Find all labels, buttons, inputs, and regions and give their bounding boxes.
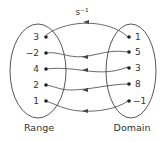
domain-value: 5 (135, 47, 141, 57)
domain-value: 1 (135, 32, 141, 42)
mapping-arrows (46, 23, 128, 111)
domain-value: 8 (135, 79, 141, 89)
range-dots (44, 35, 48, 103)
domain-value: −1 (133, 96, 146, 106)
domain-caption: Domain (114, 122, 151, 133)
range-value: 2 (33, 80, 39, 90)
range-caption: Range (24, 122, 54, 133)
domain-dots (127, 35, 131, 103)
mapping-diagram: s⁻¹ 3 −2 4 2 1 1 5 3 8 −1 Ra (0, 0, 167, 142)
mapping-label: s⁻¹ (75, 7, 88, 17)
range-value: 3 (33, 32, 39, 42)
arrow-1-to-3 (46, 23, 128, 37)
arrowheads (82, 20, 89, 113)
range-value: −2 (26, 48, 39, 58)
domain-value: 3 (135, 63, 141, 73)
range-value: 1 (33, 96, 39, 106)
range-value: 4 (33, 64, 39, 74)
